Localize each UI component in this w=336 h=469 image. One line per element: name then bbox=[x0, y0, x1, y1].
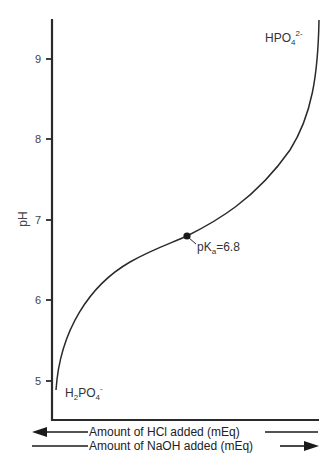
y-tick-6: 6 bbox=[35, 294, 41, 306]
pka-leader bbox=[189, 238, 196, 244]
arrow-right-icon bbox=[304, 441, 319, 451]
arrow-left-icon bbox=[32, 427, 47, 437]
x-axis-label-naoh: Amount of NaOH added (mEq) bbox=[89, 439, 253, 453]
acid-form-label: H2PO4- bbox=[65, 384, 103, 402]
base-form-label: HPO42- bbox=[265, 29, 303, 47]
y-tick-8: 8 bbox=[35, 133, 41, 145]
y-tick-5: 5 bbox=[35, 375, 41, 387]
pka-label: pKa=6.8 bbox=[197, 240, 240, 256]
y-tick-7: 7 bbox=[35, 214, 41, 226]
titration-chart: 5 6 7 8 9 pH pKa=6.8 H2PO4- HPO42- Amoun… bbox=[0, 0, 336, 469]
x-axis-label-hcl: Amount of HCl added (mEq) bbox=[89, 425, 240, 439]
y-tick-labels: 5 6 7 8 9 bbox=[35, 53, 41, 387]
titration-curve bbox=[56, 20, 319, 390]
y-axis-label: pH bbox=[16, 211, 30, 226]
y-tick-9: 9 bbox=[35, 53, 41, 65]
